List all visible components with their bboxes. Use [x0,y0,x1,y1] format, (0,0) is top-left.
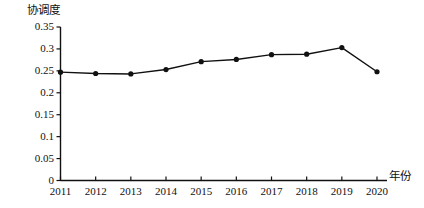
y-axis-tick-label: 0.15 [6,109,54,120]
data-point-2011 [58,70,63,75]
data-point-2012 [93,71,98,76]
data-series-line [61,48,378,74]
data-point-2019 [339,45,344,50]
y-axis-tick-label: 0.3 [6,43,54,54]
data-point-2016 [234,57,239,62]
data-point-2015 [199,59,204,64]
coordination-degree-line-chart: 协调度 年份 00.050.10.150.20.250.30.352011201… [0,0,424,208]
y-axis-tick-label: 0.05 [6,153,54,164]
data-point-2014 [163,67,168,72]
data-point-2017 [269,52,274,57]
axis-lines [61,27,388,181]
y-axis-tick-label: 0.25 [6,65,54,76]
data-point-2018 [304,52,309,57]
x-axis-tick-label: 2020 [355,186,399,197]
plot-area [0,0,424,208]
data-point-2020 [374,69,379,74]
y-axis-tick-label: 0.1 [6,131,54,142]
data-point-2013 [128,71,133,76]
y-axis-tick-label: 0 [6,175,54,186]
y-axis-tick-label: 0.35 [6,21,54,32]
y-axis-tick-label: 0.2 [6,87,54,98]
